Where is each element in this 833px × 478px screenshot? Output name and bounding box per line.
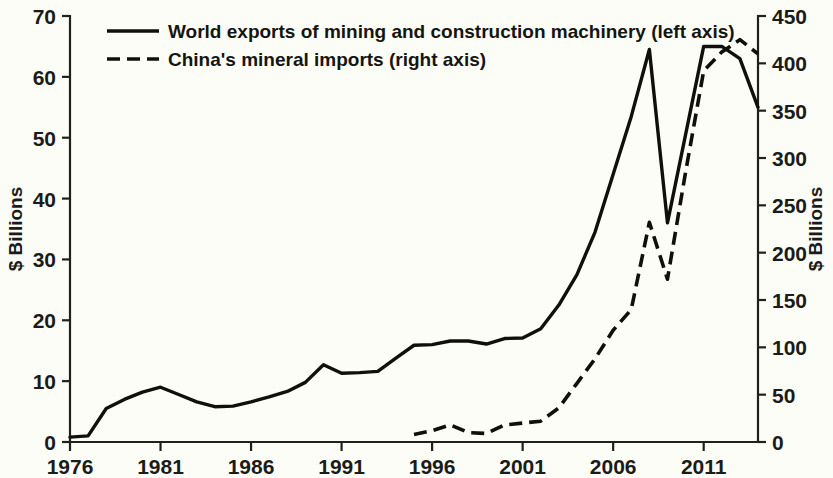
y2-axis-tick-label: 150	[772, 289, 807, 312]
y-axis-tick-label: 40	[33, 188, 56, 211]
x-axis-tick-label: 2006	[590, 455, 637, 478]
chart-background	[0, 0, 833, 478]
y-axis-tick-label: 50	[33, 127, 56, 150]
x-axis-tick-label: 2011	[681, 455, 727, 478]
y-axis-tick-label: 30	[33, 248, 56, 271]
legend-label: World exports of mining and construction…	[168, 21, 735, 42]
x-axis-tick-label: 1996	[409, 455, 456, 478]
y2-axis-tick-label: 300	[772, 147, 807, 170]
y2-axis-tick-label: 100	[772, 336, 807, 359]
y2-axis-tick-label: 0	[772, 431, 784, 454]
legend-label: China's mineral imports (right axis)	[168, 49, 486, 70]
y-axis-tick-label: 10	[33, 370, 56, 393]
y2-axis-tick-label: 450	[772, 5, 807, 28]
x-axis-tick-label: 1976	[47, 455, 94, 478]
y-axis-tick-label: 20	[33, 309, 56, 332]
chart-figure: 010203040506070 050100150200250300350400…	[0, 0, 833, 478]
y2-axis-tick-label: 350	[772, 100, 807, 123]
x-axis-tick-label: 1981	[137, 455, 184, 478]
y2-axis-tick-label: 50	[772, 384, 795, 407]
y2-axis-tick-label: 400	[772, 52, 807, 75]
x-axis-tick-label: 2001	[499, 455, 546, 478]
y-axis-tick-label: 0	[44, 431, 56, 454]
x-axis-tick-label: 1991	[318, 455, 365, 478]
dual-axis-line-chart: 010203040506070 050100150200250300350400…	[0, 0, 833, 478]
x-axis-tick-label: 1986	[228, 455, 275, 478]
y-axis-tick-label: 70	[33, 5, 56, 28]
y2-axis-tick-label: 250	[772, 194, 807, 217]
y2-axis-tick-label: 200	[772, 242, 807, 265]
y-axis-title: $ Billions	[5, 187, 26, 271]
y-axis-tick-label: 60	[33, 66, 56, 89]
y2-axis-title: $ Billions	[805, 187, 826, 271]
